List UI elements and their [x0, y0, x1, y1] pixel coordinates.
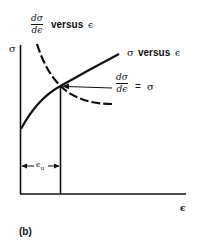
y-axis-label: σ [9, 44, 16, 54]
intersection-denominator: dϵ [117, 85, 128, 94]
panel-label: (b) [19, 227, 32, 237]
arrow-left-icon [22, 164, 28, 169]
intersection-numerator: dσ [116, 73, 128, 82]
stress-strain-label-symbol: σ [127, 48, 134, 58]
derivative-label-versus: versus [51, 20, 83, 30]
derivative-numerator: dσ [31, 14, 43, 23]
stress-strain-label-versus: versus [138, 48, 170, 58]
derivative-label-fraction: dσ dϵ [31, 14, 43, 35]
intersection-pointer-line [66, 87, 112, 89]
strain-hardening-diagram: σ dσ dϵ versus ϵ σ versus ϵ dσ dϵ = σ ϵu… [0, 0, 197, 249]
diagram-canvas [0, 0, 197, 249]
x-axis-label: ϵ [180, 204, 185, 213]
intersection-rhs: σ [147, 82, 154, 92]
arrow-right-icon [54, 164, 60, 169]
stress-strain-label-var: ϵ [175, 49, 180, 58]
uniform-strain-subscript: u [40, 164, 44, 171]
derivative-denominator: dϵ [32, 26, 43, 35]
derivative-label-var: ϵ [88, 21, 93, 30]
uniform-strain-label: ϵu [36, 161, 44, 171]
intersection-equals: = [135, 82, 141, 92]
stress-strain-curve [21, 54, 119, 129]
intersection-label-fraction: dσ dϵ [116, 73, 128, 94]
